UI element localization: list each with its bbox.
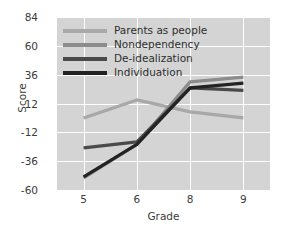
y-axis-tick-label: 84 [0,12,38,22]
legend-label: Parents as people [114,24,207,37]
y-axis-tick-label: -12 [0,127,38,137]
legend-color-swatch [63,71,107,75]
legend: Parents as peopleNondependencyDe-idealiz… [63,24,207,79]
line-chart-figure: Score Grade Parents as peopleNondependen… [0,0,290,236]
y-axis-tick-label: -36 [0,156,38,166]
y-axis-tick-label: 60 [0,41,38,51]
legend-item[interactable]: De-idealization [63,52,207,65]
y-axis-tick-label: 36 [0,70,38,80]
series-line [84,83,244,177]
legend-item[interactable]: Individuation [63,66,207,79]
x-axis-tick-label: 8 [175,193,205,205]
legend-item[interactable]: Parents as people [63,24,207,37]
x-axis-tick-label: 6 [122,193,152,205]
legend-color-swatch [63,57,107,61]
legend-label: De-idealization [114,52,193,65]
x-axis-tick-label: 5 [69,193,99,205]
y-axis-tick-label: 12 [0,99,38,109]
legend-color-swatch [63,29,107,33]
x-axis-tick-label: 9 [228,193,258,205]
x-axis-title: Grade [57,210,270,222]
y-axis-tick-label: -60 [0,185,38,195]
legend-color-swatch [63,43,107,47]
legend-item[interactable]: Nondependency [63,38,207,51]
legend-label: Nondependency [114,38,200,51]
legend-label: Individuation [114,66,182,79]
